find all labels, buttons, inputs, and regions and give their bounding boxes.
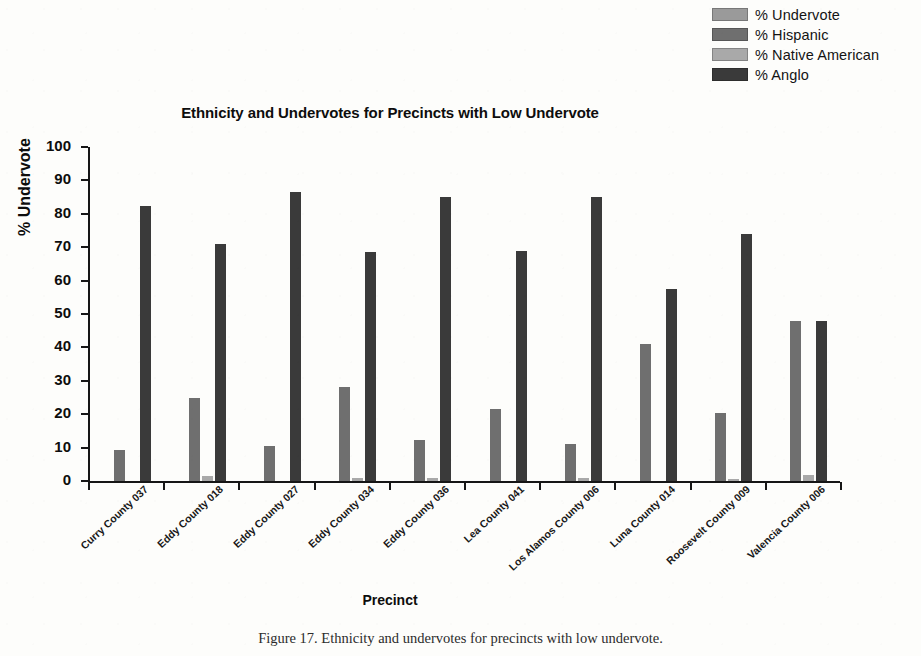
x-tick-label-text: Valencia County 006 <box>745 483 827 561</box>
legend-item: % Anglo <box>712 66 879 83</box>
x-tick-label-text: Eddy County 027 <box>230 483 300 550</box>
chart-legend: % Undervote% Hispanic% Native American% … <box>712 6 879 83</box>
y-tick-label: 0 <box>63 471 71 488</box>
bar-group <box>539 147 614 481</box>
bar <box>427 478 438 481</box>
bar <box>728 479 739 481</box>
bar-group <box>88 147 163 481</box>
bar <box>365 252 376 481</box>
x-tick-label-text: Roosevelt County 009 <box>664 483 752 567</box>
bar <box>816 321 827 481</box>
bar <box>666 289 677 481</box>
legend-swatch-icon <box>712 48 748 61</box>
figure-caption: Figure 17. Ethnicity and undervotes for … <box>0 630 921 652</box>
y-tick-label: 90 <box>54 171 71 188</box>
legend-label: % Anglo <box>755 67 809 83</box>
bar <box>741 234 752 481</box>
y-tick: 10 <box>81 447 88 449</box>
x-tick-labels: Curry County 037Eddy County 018Eddy Coun… <box>88 483 840 588</box>
y-tick: 40 <box>81 346 88 348</box>
y-tick: 20 <box>81 413 88 415</box>
legend-swatch-icon <box>712 68 748 81</box>
chart-title: Ethnicity and Undervotes for Precincts w… <box>0 104 780 121</box>
legend-swatch-icon <box>712 28 748 41</box>
x-axis-label: Precinct <box>0 592 780 608</box>
bar <box>215 244 226 481</box>
figure-container: % Undervote% Hispanic% Native American% … <box>0 0 921 656</box>
bar <box>516 251 527 481</box>
y-tick-label: 20 <box>54 404 71 421</box>
y-tick-label: 70 <box>54 237 71 254</box>
x-tick-label-text: Curry County 037 <box>78 483 150 551</box>
y-tick-label: 100 <box>46 137 71 154</box>
x-tick <box>840 482 842 490</box>
legend-swatch-icon <box>712 8 748 21</box>
bar <box>578 478 589 481</box>
legend-item: % Hispanic <box>712 26 879 43</box>
legend-label: % Hispanic <box>755 27 829 43</box>
x-tick-label-text: Eddy County 018 <box>155 483 225 550</box>
y-tick-label: 30 <box>54 371 71 388</box>
bar <box>591 197 602 481</box>
y-axis-label: % Undervote <box>16 138 34 236</box>
y-tick: 30 <box>81 380 88 382</box>
bar <box>352 478 363 481</box>
y-tick-label: 40 <box>54 338 71 355</box>
x-tick-label-text: Lea County 041 <box>461 483 526 545</box>
y-tick-label: 10 <box>54 438 71 455</box>
bar <box>140 206 151 481</box>
x-tick-label-text: Luna County 014 <box>607 483 677 549</box>
bar <box>114 450 125 481</box>
y-tick: 90 <box>81 179 88 181</box>
legend-label: % Undervote <box>755 7 840 23</box>
y-tick: 50 <box>81 313 88 315</box>
y-tick-label: 50 <box>54 304 71 321</box>
bar <box>640 344 651 481</box>
x-tick-label-text: Eddy County 036 <box>381 483 451 550</box>
y-tick-label: 60 <box>54 271 71 288</box>
y-tick: 100 <box>81 146 88 148</box>
legend-item: % Native American <box>712 46 879 63</box>
bar <box>790 321 801 481</box>
y-tick: 0 <box>81 480 88 482</box>
x-tick-label-text: Eddy County 034 <box>305 483 375 550</box>
legend-label: % Native American <box>755 47 879 63</box>
y-tick: 60 <box>81 280 88 282</box>
bar <box>440 197 451 481</box>
y-tick: 70 <box>81 246 88 248</box>
y-tick-label: 80 <box>54 204 71 221</box>
legend-item: % Undervote <box>712 6 879 23</box>
y-tick: 80 <box>81 213 88 215</box>
bar <box>202 476 213 481</box>
bar <box>803 475 814 481</box>
bar <box>290 192 301 481</box>
